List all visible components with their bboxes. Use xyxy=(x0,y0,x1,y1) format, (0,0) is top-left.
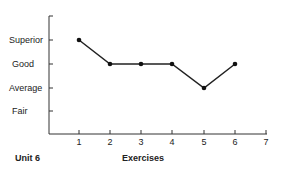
y-label-superior: Superior xyxy=(9,35,43,45)
data-point-6 xyxy=(233,62,238,67)
y-ticks xyxy=(49,40,53,111)
x-label-6: 6 xyxy=(232,137,237,147)
y-label-fair: Fair xyxy=(12,106,28,116)
x-label-4: 4 xyxy=(169,137,174,147)
x-label-7: 7 xyxy=(263,137,268,147)
y-label-good: Good xyxy=(12,59,34,69)
data-point-4 xyxy=(170,62,175,67)
unit-label: Unit 6 xyxy=(15,153,40,163)
x-label-3: 3 xyxy=(138,137,143,147)
data-point-5 xyxy=(202,86,207,91)
line-chart: Superior Good Average Fair 1 2 3 4 5 6 7… xyxy=(0,0,281,173)
data-series-line xyxy=(79,40,235,88)
data-point-3 xyxy=(139,62,144,67)
data-point-2 xyxy=(108,62,113,67)
x-axis-title: Exercises xyxy=(122,153,164,163)
x-ticks xyxy=(79,130,266,134)
data-point-1 xyxy=(77,38,82,43)
x-label-1: 1 xyxy=(76,137,81,147)
x-label-5: 5 xyxy=(201,137,206,147)
x-label-2: 2 xyxy=(107,137,112,147)
y-label-average: Average xyxy=(9,83,42,93)
x-tick-labels: 1 2 3 4 5 6 7 xyxy=(76,137,268,147)
y-tick-labels: Superior Good Average Fair xyxy=(9,35,43,116)
